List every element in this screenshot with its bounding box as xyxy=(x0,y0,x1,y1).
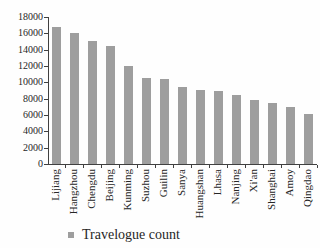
bar-hangzhou xyxy=(70,33,79,164)
y-tick-mark xyxy=(44,148,48,149)
x-tick-mark xyxy=(191,165,192,168)
x-tick-mark xyxy=(263,165,264,168)
y-tick-label-4000: 4000 xyxy=(23,124,43,138)
x-tick-mark xyxy=(227,165,228,168)
y-tick-mark xyxy=(44,82,48,83)
x-axis-labels: LijiangHangzhouChengduBeijingKunmingSuzh… xyxy=(48,169,316,229)
x-tick-label-beijing: Beijing xyxy=(103,169,115,221)
plot-area xyxy=(48,17,317,165)
x-tick-mark xyxy=(173,165,174,168)
x-tick-label-hangzhou: Hangzhou xyxy=(67,169,79,221)
x-tick-mark xyxy=(317,165,318,168)
y-tick-label-0: 0 xyxy=(38,157,43,171)
x-tick-label-guilin: Guilin xyxy=(157,169,169,221)
bar-sanya xyxy=(178,87,187,164)
x-tick-label-amoy: Amoy xyxy=(283,169,295,221)
x-tick-mark xyxy=(65,165,66,168)
x-tick-mark xyxy=(209,165,210,168)
y-tick-label-10000: 10000 xyxy=(18,75,43,89)
x-tick-label-suzhou: Suzhou xyxy=(139,169,151,221)
x-tick-label-huangshan: Huangshan xyxy=(193,169,205,221)
y-tick-mark xyxy=(44,17,48,18)
x-tick-mark xyxy=(119,165,120,168)
y-tick-mark xyxy=(44,50,48,51)
y-tick-label-16000: 16000 xyxy=(18,26,43,40)
bar-beijing xyxy=(106,46,115,164)
x-tick-label-xian: Xi'an xyxy=(247,169,259,221)
travelogue-count-bar-chart: 0200040006000800010000120001400016000180… xyxy=(0,0,320,248)
bar-huangshan xyxy=(196,90,205,164)
x-tick-mark xyxy=(155,165,156,168)
bar-xian xyxy=(250,100,259,164)
x-tick-mark xyxy=(137,165,138,168)
legend-label: Travelogue count xyxy=(82,227,180,243)
bar-shanghai xyxy=(268,103,277,164)
x-tick-mark xyxy=(245,165,246,168)
y-tick-label-6000: 6000 xyxy=(23,108,43,122)
y-tick-label-12000: 12000 xyxy=(18,59,43,73)
bar-amoy xyxy=(286,107,295,164)
y-tick-label-18000: 18000 xyxy=(18,10,43,24)
x-tick-label-sanya: Sanya xyxy=(175,169,187,221)
legend: Travelogue count xyxy=(68,227,180,243)
y-tick-mark xyxy=(44,99,48,100)
y-tick-label-8000: 8000 xyxy=(23,92,43,106)
y-tick-label-2000: 2000 xyxy=(23,141,43,155)
x-tick-mark xyxy=(299,165,300,168)
x-tick-mark xyxy=(83,165,84,168)
legend-marker-square xyxy=(68,232,74,238)
bar-lijiang xyxy=(52,27,61,164)
y-tick-mark xyxy=(44,33,48,34)
x-tick-label-lhasa: Lhasa xyxy=(211,169,223,221)
bar-guilin xyxy=(160,79,169,164)
bar-nanjing xyxy=(232,95,241,164)
bar-chengdu xyxy=(88,41,97,164)
x-tick-label-qingdao: Qingdao xyxy=(301,169,313,221)
bar-lhasa xyxy=(214,91,223,164)
x-tick-label-lijiang: Lijiang xyxy=(49,169,61,221)
bar-kunming xyxy=(124,66,133,164)
bar-suzhou xyxy=(142,78,151,164)
y-tick-mark xyxy=(44,115,48,116)
y-tick-mark xyxy=(44,131,48,132)
y-tick-mark xyxy=(44,66,48,67)
bar-qingdao xyxy=(304,114,313,164)
x-tick-mark xyxy=(101,165,102,168)
x-tick-label-kunming: Kunming xyxy=(121,169,133,221)
y-tick-label-14000: 14000 xyxy=(18,43,43,57)
y-axis-labels: 0200040006000800010000120001400016000180… xyxy=(0,17,43,164)
x-tick-mark xyxy=(281,165,282,168)
x-tick-label-chengdu: Chengdu xyxy=(85,169,97,221)
x-tick-label-shanghai: Shanghai xyxy=(265,169,277,221)
y-tick-mark xyxy=(44,164,48,165)
x-tick-label-nanjing: Nanjing xyxy=(229,169,241,221)
